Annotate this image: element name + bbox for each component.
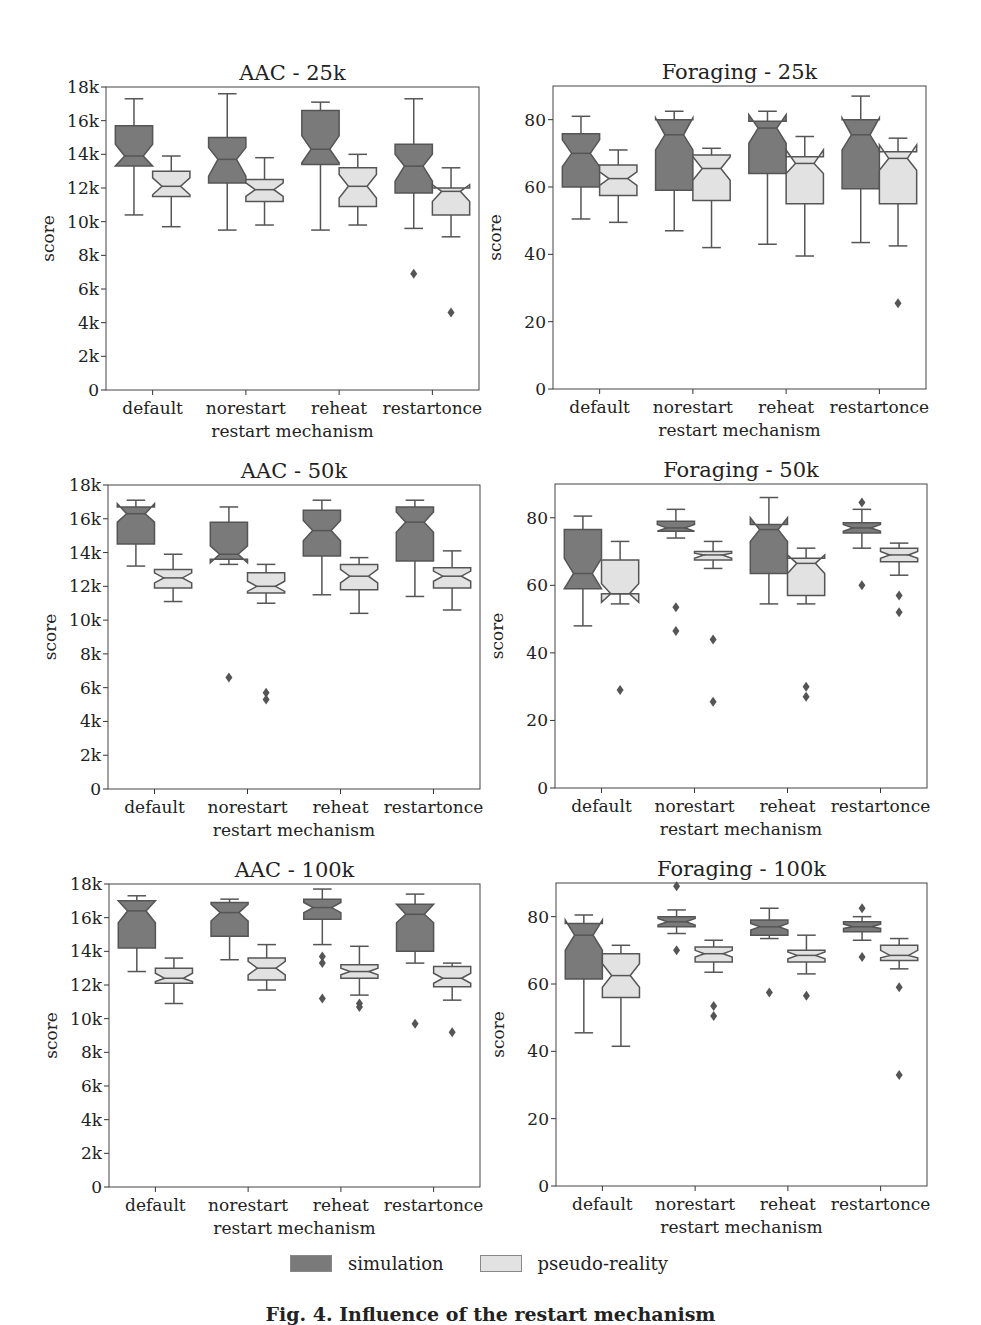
outlier-marker [803,991,810,1001]
box-simulation [303,500,340,595]
x-tick-label: restartonce [384,797,484,817]
y-tick-label: 0 [537,778,548,798]
x-tick-label: default [571,796,632,816]
box-simulation [842,96,879,242]
outlier-marker [710,634,717,644]
outlier-marker [449,1027,456,1037]
x-tick-label: restartonce [830,397,930,417]
outlier-marker [319,993,326,1003]
box-pseudo-reality [695,940,732,1021]
y-tick-label: 16k [69,509,102,529]
outlier-marker [319,958,326,968]
y-axis-label: score [485,214,505,261]
y-axis-label: score [38,215,58,262]
x-tick-label: norestart [208,1195,288,1215]
y-axis-label: score [487,613,507,660]
y-tick-label: 0 [535,379,546,399]
box-simulation [118,896,155,972]
y-tick-label: 18k [67,77,100,97]
box-simulation [210,507,247,683]
y-tick-label: 8k [81,1042,103,1062]
y-tick-label: 14k [70,941,103,961]
box-pseudo-reality [434,551,471,610]
chart-panel: AAC - 100k02k4k6k8k10k12k14k16k18kscored… [41,858,483,1238]
outlier-marker [803,682,810,692]
outlier-marker [617,685,624,695]
box-simulation [656,111,693,231]
outlier-marker [263,688,270,698]
box-simulation [304,889,341,1003]
y-tick-label: 2k [78,346,100,366]
box-pseudo-reality [432,168,469,318]
x-tick-label: default [572,1194,633,1214]
y-tick-label: 2k [80,745,102,765]
x-axis-label: restart mechanism [660,819,822,839]
y-tick-label: 8k [80,644,102,664]
x-tick-label: restartonce [384,1195,484,1215]
y-tick-label: 0 [90,779,101,799]
x-tick-label: norestart [206,398,286,418]
box-simulation [564,516,601,626]
outlier-marker [448,308,455,318]
y-tick-label: 80 [527,907,549,927]
box-simulation [749,111,786,244]
outlier-marker [710,1001,717,1011]
y-tick-label: 14k [67,144,100,164]
box-pseudo-reality [600,150,637,222]
box-simulation [302,102,339,230]
box-pseudo-reality [341,558,378,614]
y-tick-label: 20 [526,710,548,730]
outlier-marker [225,673,232,683]
y-tick-label: 40 [526,643,548,663]
x-tick-label: reheat [311,398,367,418]
legend-swatch-simulation [290,1255,332,1272]
y-tick-label: 60 [526,575,548,595]
x-axis-label: restart mechanism [660,1217,822,1237]
outlier-marker [673,945,680,955]
box-pseudo-reality [693,148,730,247]
chart-title: Foraging - 50k [663,458,819,482]
chart-panel: AAC - 50k02k4k6k8k10k12k14k16k18kscorede… [40,459,483,840]
legend-label-pseudo-reality: pseudo-reality [538,1253,668,1274]
y-tick-label: 12k [70,975,103,995]
chart-panel: AAC - 25k02k4k6k8k10k12k14k16k18kscorede… [38,61,482,441]
outlier-marker [710,1011,717,1021]
x-tick-label: default [122,398,183,418]
outlier-marker [672,626,679,636]
y-tick-label: 0 [91,1177,102,1197]
outlier-marker [859,903,866,913]
legend: simulation pseudo-reality [290,1253,704,1274]
box-pseudo-reality [155,958,192,1003]
box-pseudo-reality [788,548,825,702]
box-simulation [657,509,694,636]
chart-title: Foraging - 25k [662,60,818,84]
y-tick-label: 14k [69,543,102,563]
box-pseudo-reality [881,939,918,1080]
y-tick-label: 4k [81,1110,103,1130]
y-tick-label: 18k [69,475,102,495]
y-tick-label: 0 [538,1176,549,1196]
legend-item-pseudo-reality: pseudo-reality [480,1253,668,1274]
box-pseudo-reality [786,137,823,257]
outlier-marker [412,1019,419,1029]
box-simulation [395,99,432,279]
x-tick-label: restartonce [831,796,931,816]
chart-title: Foraging - 100k [657,857,826,881]
x-axis-label: restart mechanism [211,421,373,441]
box-pseudo-reality [248,945,285,990]
box-simulation [843,498,880,591]
outlier-marker [896,607,903,617]
y-tick-label: 8k [78,245,100,265]
box-pseudo-reality [341,946,378,1012]
legend-item-simulation: simulation [290,1253,444,1274]
x-tick-label: reheat [313,1195,369,1215]
y-tick-label: 4k [78,313,100,333]
x-tick-label: reheat [312,797,368,817]
x-tick-label: norestart [655,1194,735,1214]
x-tick-label: norestart [207,797,287,817]
figure-caption: Fig. 4. Influence of the restart mechani… [0,1303,981,1325]
box-pseudo-reality [248,564,285,704]
box-simulation [658,881,695,955]
x-axis-label: restart mechanism [658,420,820,440]
chart-title: AAC - 25k [238,61,346,85]
